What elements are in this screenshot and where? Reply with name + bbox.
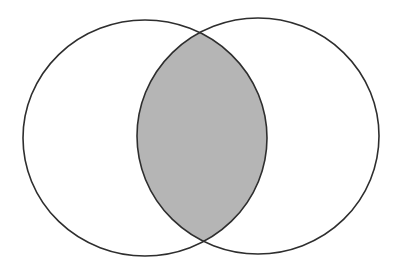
venn-diagram <box>0 0 397 269</box>
